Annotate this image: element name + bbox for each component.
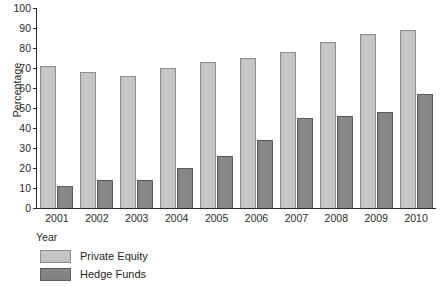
bar-group xyxy=(356,8,396,208)
x-tick-label: 2010 xyxy=(396,212,436,224)
bar-group xyxy=(316,8,356,208)
x-tick-label: 2005 xyxy=(197,212,237,224)
bar-groups xyxy=(37,8,436,208)
bar-group xyxy=(117,8,157,208)
x-tick-label: 2002 xyxy=(77,212,117,224)
bar-hedge-funds xyxy=(97,180,113,208)
chart-legend: Private EquityHedge Funds xyxy=(40,248,148,284)
bar-hedge-funds xyxy=(377,112,393,208)
bar-group xyxy=(157,8,197,208)
legend-label: Private Equity xyxy=(80,250,148,262)
y-tick-label: 70 xyxy=(4,63,31,74)
x-axis-title: Year xyxy=(36,231,57,243)
x-tick-label: 2001 xyxy=(37,212,77,224)
legend-label: Hedge Funds xyxy=(80,268,146,280)
y-tick-label: 40 xyxy=(4,123,31,134)
bar-hedge-funds xyxy=(217,156,233,208)
bar-group xyxy=(276,8,316,208)
x-axis-tick-labels: 2001200220032004200520062007200820092010 xyxy=(37,212,436,224)
bar-private-equity xyxy=(80,72,96,208)
bar-group xyxy=(37,8,77,208)
bar-private-equity xyxy=(40,66,56,208)
y-tick-label: 80 xyxy=(4,43,31,54)
x-axis-line xyxy=(36,208,436,209)
y-tick-mark xyxy=(33,208,37,209)
y-tick-mark xyxy=(33,168,37,169)
x-tick-label: 2006 xyxy=(237,212,277,224)
plot-area: 0102030405060708090100 xyxy=(36,8,436,209)
bar-group xyxy=(237,8,277,208)
y-tick-mark xyxy=(33,128,37,129)
legend-item: Hedge Funds xyxy=(40,266,148,282)
y-tick-label: 10 xyxy=(4,183,31,194)
bar-hedge-funds xyxy=(57,186,73,208)
bar-hedge-funds xyxy=(417,94,433,208)
bar-private-equity xyxy=(160,68,176,208)
y-tick-mark xyxy=(33,108,37,109)
y-tick-label: 30 xyxy=(4,143,31,154)
y-tick-mark xyxy=(33,48,37,49)
y-tick-label: 0 xyxy=(4,203,31,214)
bar-hedge-funds xyxy=(297,118,313,208)
y-tick-mark xyxy=(33,68,37,69)
y-tick-mark xyxy=(33,188,37,189)
x-tick-label: 2009 xyxy=(356,212,396,224)
legend-item: Private Equity xyxy=(40,248,148,264)
y-tick-label: 20 xyxy=(4,163,31,174)
legend-swatch-icon xyxy=(40,268,71,281)
bar-private-equity xyxy=(200,62,216,208)
x-tick-label: 2003 xyxy=(117,212,157,224)
x-tick-label: 2007 xyxy=(276,212,316,224)
legend-swatch-icon xyxy=(40,250,71,263)
bar-private-equity xyxy=(360,34,376,208)
bar-private-equity xyxy=(240,58,256,208)
bar-private-equity xyxy=(400,30,416,208)
y-tick-mark xyxy=(33,88,37,89)
bar-group xyxy=(197,8,237,208)
y-tick-label: 90 xyxy=(4,23,31,34)
bar-private-equity xyxy=(120,76,136,208)
bar-hedge-funds xyxy=(177,168,193,208)
bar-hedge-funds xyxy=(137,180,153,208)
x-tick-label: 2008 xyxy=(316,212,356,224)
bar-chart-figure: Percentage 0102030405060708090100 200120… xyxy=(0,0,441,287)
y-tick-label: 60 xyxy=(4,83,31,94)
y-tick-label: 50 xyxy=(4,103,31,114)
bar-hedge-funds xyxy=(257,140,273,208)
y-tick-mark xyxy=(33,8,37,9)
bar-private-equity xyxy=(320,42,336,208)
bar-group xyxy=(77,8,117,208)
bar-group xyxy=(396,8,436,208)
bar-private-equity xyxy=(280,52,296,208)
y-tick-label: 100 xyxy=(4,3,31,14)
x-tick-label: 2004 xyxy=(157,212,197,224)
y-tick-mark xyxy=(33,28,37,29)
y-tick-mark xyxy=(33,148,37,149)
bar-hedge-funds xyxy=(337,116,353,208)
